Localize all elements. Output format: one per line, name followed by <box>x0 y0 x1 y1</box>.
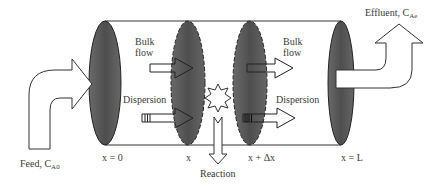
reaction-arrow-icon <box>209 117 227 164</box>
bulk-flow-in-label-line1: Bulk <box>135 36 154 47</box>
effluent-label-subscript: Ae <box>409 12 417 20</box>
effluent-label-text: Effluent, C <box>365 7 409 18</box>
position-label-x-dx: x + Δx <box>248 152 275 163</box>
dispersion-out-label: Dispersion <box>276 94 319 105</box>
dispersion-in-label: Dispersion <box>123 94 166 105</box>
position-label-x: x <box>186 152 191 163</box>
reaction-star-icon <box>205 84 231 112</box>
reaction-label: Reaction <box>200 168 236 179</box>
feed-label-text: Feed, C <box>20 158 51 169</box>
bulk-flow-out-label-line1: Bulk <box>283 36 302 47</box>
position-label-xL: x = L <box>341 152 363 163</box>
position-label-x0: x = 0 <box>102 152 123 163</box>
bulk-flow-out-label-line2: flow <box>283 47 301 58</box>
feed-label: Feed, CA0 <box>20 158 60 173</box>
reactor-diagram <box>0 0 444 187</box>
bulk-flow-in-label-line2: flow <box>135 47 153 58</box>
effluent-label: Effluent, CAe <box>365 7 417 22</box>
element-out-face-ellipse <box>233 21 267 145</box>
feed-label-subscript: A0 <box>51 163 60 171</box>
element-in-face-ellipse <box>171 21 205 145</box>
inlet-face-ellipse <box>89 21 121 145</box>
dispersion-in-hatch-icon <box>145 114 150 122</box>
feed-arrow-icon <box>29 59 92 149</box>
